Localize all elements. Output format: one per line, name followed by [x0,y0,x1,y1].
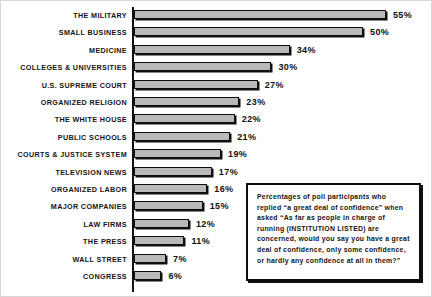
bar-category-label: MEDICINE [0,45,127,56]
bar-value-label: 15% [210,200,229,212]
bar-value-label: 21% [237,131,256,143]
bar-shape [134,236,184,245]
bar-category-label: MAJOR COMPANIES [0,201,127,212]
bar-shape [134,167,212,176]
bar-row: PUBLIC SCHOOLS21% [1,131,432,148]
bar-category-label: WALL STREET [0,254,127,265]
bar-value-label: 22% [242,113,261,125]
bar-row: TELEVISION NEWS17% [1,166,432,183]
bar-value-label: 27% [265,79,284,91]
bar-value-label: 7% [173,253,187,265]
bar-shape [134,114,235,123]
bar-shape [134,10,386,19]
bar-row: THE WHITE HOUSE22% [1,113,432,130]
bar-row: MEDICINE34% [1,44,432,61]
bar-shape [134,254,166,263]
caption-text: Percentages of poll participants who rep… [257,192,411,266]
caption-box: Percentages of poll participants who rep… [246,183,421,281]
bar-shape [134,132,230,141]
bar-shape [134,149,221,158]
bar-value-label: 19% [228,148,247,160]
bar-category-label: COLLEGES & UNIVERSITIES [0,62,127,73]
bar-value-label: 17% [219,166,238,178]
bar-row: THE MILITARY55% [1,9,432,26]
bar-row: COURTS & JUSTICE SYSTEM19% [1,148,432,165]
bar-value-label: 55% [393,9,412,21]
bar-value-label: 11% [191,235,210,247]
bar-shape [134,80,258,89]
bar-shape [134,27,363,36]
bar-value-label: 23% [246,96,265,108]
bar-shape [134,219,189,228]
bar-category-label: ORGANIZED LABOR [0,184,127,195]
bar-category-label: THE MILITARY [0,10,127,21]
bar-category-label: SMALL BUSINESS [0,27,127,38]
bar-category-label: PUBLIC SCHOOLS [0,132,127,143]
bar-category-label: COURTS & JUSTICE SYSTEM [0,149,127,160]
bar-value-label: 30% [278,61,297,73]
bar-category-label: LAW FIRMS [0,219,127,230]
bar-shape [134,184,207,193]
bar-category-label: CONGRESS [0,271,127,282]
bar-category-label: THE PRESS [0,236,127,247]
bar-shape [134,201,203,210]
bar-category-label: U.S. SUPREME COURT [0,80,127,91]
confidence-in-institutions-bar-chart: THE MILITARY55%SMALL BUSINESS50%MEDICINE… [0,0,432,297]
bar-category-label: THE WHITE HOUSE [0,114,127,125]
bar-shape [134,97,239,106]
bar-row: SMALL BUSINESS50% [1,26,432,43]
bar-value-label: 6% [168,270,182,282]
bar-category-label: TELEVISION NEWS [0,167,127,178]
bar-row: U.S. SUPREME COURT27% [1,79,432,96]
bar-category-label: ORGANIZED RELIGION [0,97,127,108]
bar-row: COLLEGES & UNIVERSITIES30% [1,61,432,78]
bar-shape [134,271,161,280]
bar-value-label: 12% [196,218,215,230]
bar-shape [134,45,290,54]
bar-value-label: 50% [370,26,389,38]
bar-shape [134,62,271,71]
bar-row: ORGANIZED RELIGION23% [1,96,432,113]
bar-value-label: 34% [297,44,316,56]
bar-value-label: 16% [214,183,233,195]
